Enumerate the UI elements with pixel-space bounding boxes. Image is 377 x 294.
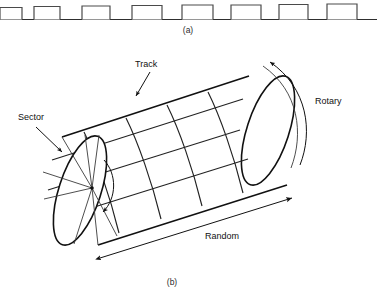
tape-block [327,4,357,20]
band-arc [167,105,202,206]
band-arc [126,118,161,219]
cylinder-right-endcap [230,70,305,191]
tape-block [279,5,308,20]
band-arc [208,92,243,193]
figure-root: (a) [0,0,377,294]
cylinder-band-arcs [84,92,243,233]
panel-b-drum: Track Sector Rotary Random (b) [18,59,342,287]
tape-block [231,5,261,20]
tape-block [82,6,110,20]
track-leader-line [136,72,150,96]
tape-block [182,5,213,20]
panel-a-tape: (a) [0,4,377,35]
tape-block [132,6,162,20]
sector-leader-line [36,127,62,152]
panel-a-caption: (a) [183,25,194,35]
track-label: Track [135,59,158,69]
random-label: Random [205,231,239,241]
cylinder-bottom-ruling [98,185,287,245]
hub-center [90,186,94,190]
tape-blocks [0,4,357,20]
sector-label: Sector [18,112,44,122]
tape-block [0,8,22,20]
figure-svg: (a) [0,0,377,294]
random-access-arrow [100,198,292,258]
panel-b-caption: (b) [167,277,178,287]
rotary-label: Rotary [315,96,342,106]
tape-block [34,7,60,20]
